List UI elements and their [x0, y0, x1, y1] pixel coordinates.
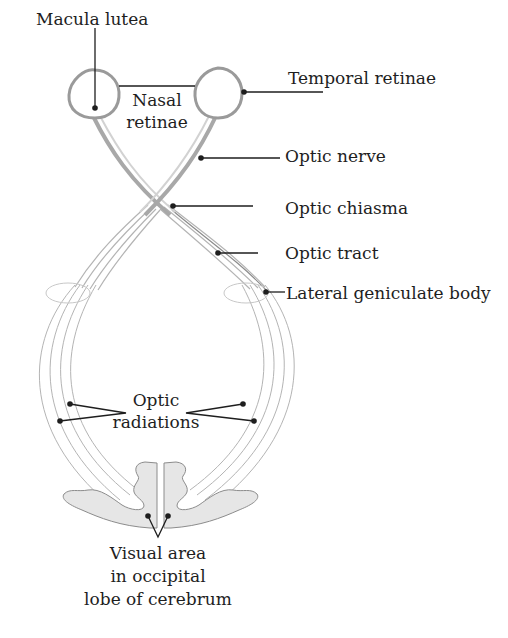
- label-optic-tract: Optic tract: [285, 243, 378, 263]
- label-visual-area-line3: lobe of cerebrum: [78, 589, 238, 609]
- label-optic-nerve: Optic nerve: [285, 146, 386, 166]
- optic-tract-left: [75, 205, 160, 290]
- label-visual-area-line1: Visual area: [88, 543, 228, 563]
- label-visual-area-line2: in occipital: [88, 566, 228, 586]
- label-macula-lutea: Macula lutea: [36, 9, 148, 29]
- eye-right: [195, 68, 242, 118]
- optic-radiations-right: [190, 285, 294, 505]
- label-optic-chiasma: Optic chiasma: [285, 198, 408, 218]
- label-lateral-geniculate-body: Lateral geniculate body: [286, 283, 491, 303]
- label-optic-radiations-line2: radiations: [112, 412, 200, 432]
- diagram-graphic: [0, 0, 508, 638]
- label-optic-radiations-line1: Optic: [120, 390, 192, 410]
- label-temporal-retinae: Temporal retinae: [288, 68, 436, 88]
- visual-pathway-diagram: Macula lutea Nasal retinae Temporal reti…: [0, 0, 508, 638]
- leader-dots: [57, 89, 269, 519]
- optic-tract-right: [160, 205, 268, 292]
- eye-left: [69, 70, 119, 118]
- label-nasal-retinae-line1: Nasal: [128, 90, 186, 110]
- label-nasal-retinae-line2: retinae: [124, 112, 190, 132]
